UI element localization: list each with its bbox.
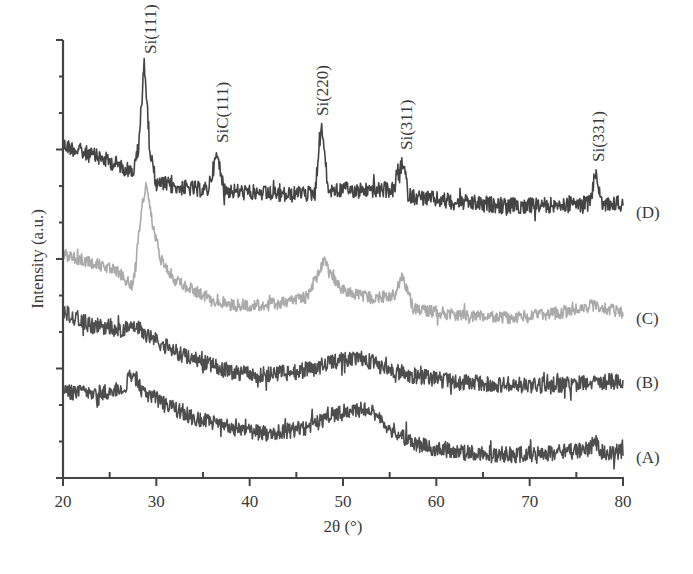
- x-tick-label: 30: [148, 492, 165, 511]
- peak-label: SiC(111): [213, 82, 232, 143]
- series-label: (C): [636, 309, 659, 328]
- series-line: [63, 306, 623, 400]
- series-label: (B): [636, 373, 659, 392]
- series-line: [63, 59, 623, 221]
- xrd-chart: 20304050607080 2θ (°) Intensity (a.u.) S…: [0, 0, 693, 574]
- series-labels: (D)(C)(B)(A): [636, 203, 660, 467]
- x-tick-label: 80: [615, 492, 632, 511]
- peak-label: Si(111): [141, 4, 160, 54]
- series-label: (D): [636, 203, 660, 222]
- x-tick-label: 40: [241, 492, 258, 511]
- x-tick-label: 70: [521, 492, 538, 511]
- x-tick-label: 60: [428, 492, 445, 511]
- series-d: [63, 59, 623, 221]
- peak-label: Si(220): [313, 65, 332, 116]
- series-label: (A): [636, 448, 660, 467]
- peak-annotations: Si(111)SiC(111)Si(220)Si(311)Si(331): [141, 4, 608, 162]
- x-tick-label: 20: [55, 492, 72, 511]
- peak-label: Si(311): [397, 100, 416, 150]
- peak-label: Si(331): [589, 111, 608, 162]
- series-layer: [63, 59, 623, 470]
- x-axis-title: 2θ (°): [323, 517, 362, 536]
- y-axis-title: Intensity (a.u.): [28, 209, 47, 309]
- x-tick-label: 50: [335, 492, 352, 511]
- series-b: [63, 306, 623, 400]
